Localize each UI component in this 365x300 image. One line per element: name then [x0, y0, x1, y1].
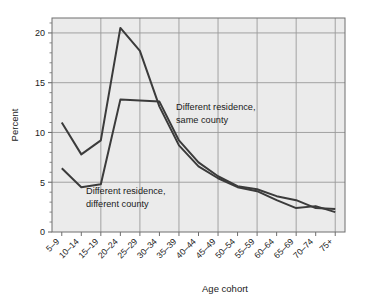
annotation-same-county-line1: Different residence, — [176, 102, 256, 112]
x-axis-title: Age cohort — [202, 283, 248, 294]
y-axis-tick-label: 0 — [40, 227, 45, 237]
chart-figure: 05101520 5–910–1415–1920–2425–2930–3435–… — [0, 0, 365, 300]
annotation-different-county-line1: Different residence, — [86, 186, 166, 196]
annotation-same-county-line2: same county — [176, 115, 228, 125]
y-axis-tick-label: 15 — [35, 78, 45, 88]
y-axis-tick-label: 20 — [35, 28, 45, 38]
y-axis-title: Percent — [9, 108, 20, 141]
y-axis-tick-label: 10 — [35, 128, 45, 138]
line-chart-svg: 05101520 5–910–1415–1920–2425–2930–3435–… — [0, 0, 365, 300]
y-axis-tick-label: 5 — [40, 178, 45, 188]
annotation-different-county-line2: different county — [86, 199, 149, 209]
